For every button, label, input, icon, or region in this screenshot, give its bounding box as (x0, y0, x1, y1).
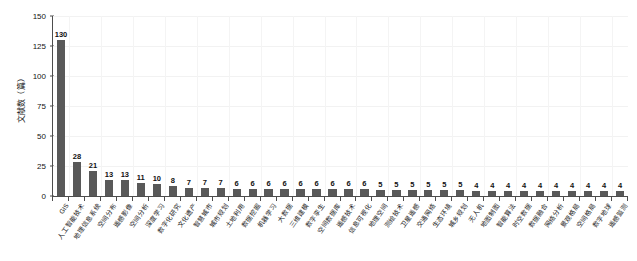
bar-item[interactable]: 28 (73, 16, 81, 196)
bar-item[interactable]: 5 (408, 16, 416, 196)
bar-value-label: 4 (474, 181, 478, 190)
bar-value-label: 6 (330, 179, 334, 188)
bar-rect[interactable] (121, 180, 129, 196)
bar-rect[interactable] (440, 190, 448, 196)
bar-rect[interactable] (600, 191, 608, 196)
bar-rect[interactable] (201, 188, 209, 196)
bar-rect[interactable] (89, 171, 97, 196)
bar-item[interactable]: 6 (344, 16, 352, 196)
bar-rect[interactable] (73, 162, 81, 196)
bar-item[interactable]: 4 (600, 16, 608, 196)
bar-value-label: 7 (187, 178, 191, 187)
bar-item[interactable]: 21 (89, 16, 97, 196)
bar-item[interactable]: 8 (169, 16, 177, 196)
x-tick-mark (435, 197, 436, 201)
bar-rect[interactable] (296, 189, 304, 196)
y-tick-label: 50 (37, 132, 46, 141)
bar-rect[interactable] (153, 184, 161, 196)
bar-value-label: 13 (121, 170, 129, 179)
bar-rect[interactable] (616, 191, 624, 196)
bar-rect[interactable] (536, 191, 544, 196)
bar-value-label: 4 (538, 181, 542, 190)
x-tick-mark (68, 197, 69, 201)
bar-item[interactable]: 5 (456, 16, 464, 196)
bar-rect[interactable] (249, 189, 257, 196)
bar-item[interactable]: 6 (296, 16, 304, 196)
bar-item[interactable]: 7 (201, 16, 209, 196)
x-tick-mark (547, 197, 548, 201)
bar-item[interactable]: 5 (440, 16, 448, 196)
bar-value-label: 4 (522, 181, 526, 190)
bar-rect[interactable] (456, 190, 464, 196)
bar-value-label: 4 (602, 181, 606, 190)
bar-item[interactable]: 5 (392, 16, 400, 196)
x-tick-mark (148, 197, 149, 201)
bar-rect[interactable] (264, 189, 272, 196)
bar-item[interactable]: 4 (568, 16, 576, 196)
bar-item[interactable]: 7 (217, 16, 225, 196)
bar-value-label: 5 (378, 180, 382, 189)
bar-item[interactable]: 130 (57, 16, 65, 196)
x-tick-mark (308, 197, 309, 201)
bar-value-label: 7 (219, 178, 223, 187)
bar-rect[interactable] (504, 191, 512, 196)
bar-rect[interactable] (568, 191, 576, 196)
x-tick-mark (196, 197, 197, 201)
bar-item[interactable]: 4 (488, 16, 496, 196)
plot-area: 1302821131311108777666666666555555444444… (52, 16, 628, 197)
bar-rect[interactable] (312, 189, 320, 196)
bar-item[interactable]: 4 (536, 16, 544, 196)
bar-rect[interactable] (424, 190, 432, 196)
bar-rect[interactable] (137, 183, 145, 196)
bar-item[interactable]: 13 (105, 16, 113, 196)
bar-item[interactable]: 4 (552, 16, 560, 196)
bar-item[interactable]: 5 (376, 16, 384, 196)
bar-item[interactable]: 6 (360, 16, 368, 196)
bar-item[interactable]: 10 (153, 16, 161, 196)
bar-item[interactable]: 6 (280, 16, 288, 196)
bar-rect[interactable] (520, 191, 528, 196)
bar-item[interactable]: 6 (233, 16, 241, 196)
bar-rect[interactable] (280, 189, 288, 196)
bar-rect[interactable] (488, 191, 496, 196)
bar-item[interactable]: 13 (121, 16, 129, 196)
bar-item[interactable]: 7 (185, 16, 193, 196)
bar-value-label: 13 (105, 170, 113, 179)
bar-item[interactable]: 5 (424, 16, 432, 196)
bar-item[interactable]: 6 (328, 16, 336, 196)
bar-rect[interactable] (392, 190, 400, 196)
bar-item[interactable]: 4 (504, 16, 512, 196)
bar-rect[interactable] (584, 191, 592, 196)
bar-rect[interactable] (105, 180, 113, 196)
bar-rect[interactable] (217, 188, 225, 196)
bar-value-label: 5 (410, 180, 414, 189)
bar-rect[interactable] (408, 190, 416, 196)
bar-rect[interactable] (552, 191, 560, 196)
bar-rect[interactable] (233, 189, 241, 196)
bar-rect[interactable] (328, 189, 336, 196)
bar-rect[interactable] (472, 191, 480, 196)
bar-item[interactable]: 4 (584, 16, 592, 196)
y-tick-label: 100 (33, 72, 46, 81)
bar-chart-figure: 文献数（篇） 0255075100125150 1302821131311108… (0, 0, 637, 261)
bar-item[interactable]: 6 (264, 16, 272, 196)
bar-item[interactable]: 11 (137, 16, 145, 196)
x-tick-mark (164, 197, 165, 201)
bar-rect[interactable] (376, 190, 384, 196)
bar-item[interactable]: 6 (249, 16, 257, 196)
bar-item[interactable]: 4 (472, 16, 480, 196)
bar-item[interactable]: 6 (312, 16, 320, 196)
y-tick-label: 125 (33, 42, 46, 51)
bar-value-label: 6 (283, 179, 287, 188)
bar-rect[interactable] (57, 40, 65, 196)
bar-value-label: 11 (137, 173, 145, 182)
bar-item[interactable]: 4 (616, 16, 624, 196)
bar-rect[interactable] (169, 186, 177, 196)
bar-rect[interactable] (185, 188, 193, 196)
x-tick-mark (515, 197, 516, 201)
bar-rect[interactable] (344, 189, 352, 196)
x-tick-mark (595, 197, 596, 201)
x-tick-mark (132, 197, 133, 201)
bar-item[interactable]: 4 (520, 16, 528, 196)
bar-rect[interactable] (360, 189, 368, 196)
